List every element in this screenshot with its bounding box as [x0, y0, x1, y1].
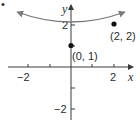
point-label-0-1: (0, 1): [72, 50, 98, 62]
list-bullet: •: [1, 0, 5, 10]
x-axis-label: x: [127, 70, 134, 84]
y-tick-label-neg2: −2: [54, 103, 67, 115]
x-tick-label-2: 2: [110, 71, 116, 83]
y-axis-label: y: [61, 2, 68, 16]
point-2-2: [111, 21, 116, 26]
y-tick-label-2: 2: [62, 19, 68, 31]
graph: • −2 2 2 −2 x y (0, 1) (2, 2): [0, 0, 140, 121]
point-label-2-2: (2, 2): [110, 30, 136, 42]
point-0-1: [68, 43, 73, 48]
x-tick-label-neg2: −2: [17, 71, 30, 83]
